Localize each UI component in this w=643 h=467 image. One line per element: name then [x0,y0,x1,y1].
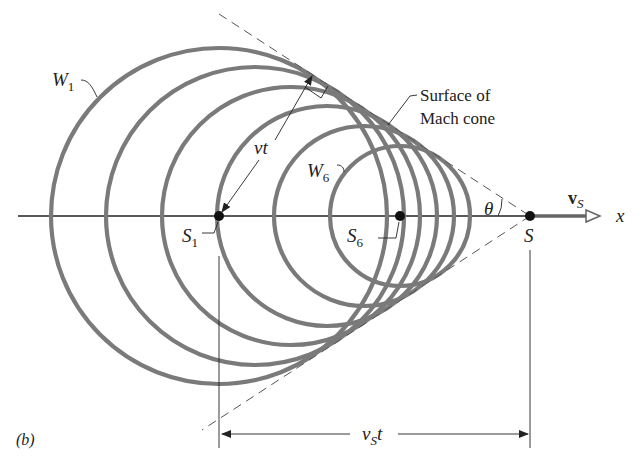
theta-arc [498,199,502,216]
label-vst: vSt [362,423,383,448]
mach-cone-diagram: W1 W6 S1 S6 S vt θ vS x Surface of Mach … [0,0,643,467]
label-mach-line1: Surface of [420,86,491,105]
label-w6: W6 [307,160,330,185]
label-w1: W1 [52,69,74,94]
label-vs: vS [568,188,584,211]
w1-leader [81,80,97,97]
label-s6: S6 [347,225,364,250]
source-point-s [525,211,535,221]
panel-label: (b) [16,431,35,449]
mach-cone-lower-line [202,216,530,430]
label-s: S [524,225,534,246]
label-vt: vt [254,137,268,158]
label-s1: S1 [182,225,198,250]
source-point-s1 [214,211,224,221]
source-point-s6 [395,211,405,221]
label-mach-line2: Mach cone [420,109,495,128]
mach-leader [388,95,417,125]
label-theta: θ [484,198,493,219]
velocity-arrow-head [586,210,600,222]
label-x-axis: x [615,205,625,226]
w6-leader [337,165,344,172]
